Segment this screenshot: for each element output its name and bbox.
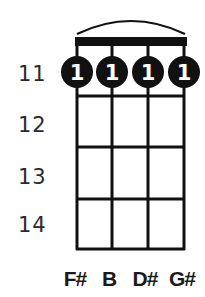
barre-arc (77, 21, 185, 34)
fret-number: 12 (18, 114, 58, 136)
svg-text:1: 1 (141, 61, 156, 85)
svg-text:1: 1 (177, 61, 192, 85)
nut (75, 37, 187, 46)
finger-dots: 1 1 1 1 (61, 56, 200, 88)
fretboard-graphic: 1 1 1 1 (0, 0, 205, 297)
fret-number: 11 (18, 63, 58, 85)
string-note-label: F# (57, 268, 93, 290)
string-note-label: B (91, 268, 127, 290)
finger-dot: 1 (61, 56, 93, 88)
frets (76, 96, 185, 249)
string-note-label: D# (127, 268, 163, 290)
string-note-label: G# (164, 268, 200, 290)
fret-number: 14 (18, 214, 58, 236)
svg-text:1: 1 (70, 61, 85, 85)
svg-text:1: 1 (105, 61, 120, 85)
finger-dot: 1 (168, 56, 200, 88)
fret-number: 13 (18, 166, 58, 188)
finger-dot: 1 (132, 56, 164, 88)
chord-diagram: 1 1 1 1 11 12 13 14 F# B D# G# (0, 0, 205, 297)
finger-dot: 1 (96, 56, 128, 88)
